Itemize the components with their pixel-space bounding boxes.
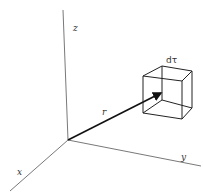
cube-edge — [162, 66, 192, 71]
volume-element-diagram: z x y r dτ — [0, 0, 203, 194]
cube-edge — [143, 113, 182, 119]
x-axis — [10, 140, 68, 191]
cube-edge — [182, 71, 192, 81]
cube-edge — [162, 100, 192, 108]
position-vector-r — [68, 93, 161, 140]
x-axis-label: x — [17, 167, 22, 177]
z-axis-label: z — [72, 23, 78, 33]
cube-edge — [143, 100, 162, 113]
cube-edge — [182, 108, 192, 119]
vector-r-label: r — [102, 107, 107, 117]
volume-element-label: dτ — [166, 55, 177, 65]
z-axis — [63, 10, 68, 140]
cube-edge — [143, 66, 162, 76]
y-axis-label: y — [180, 152, 187, 162]
volume-element-cube — [143, 66, 192, 119]
axes — [10, 10, 201, 191]
